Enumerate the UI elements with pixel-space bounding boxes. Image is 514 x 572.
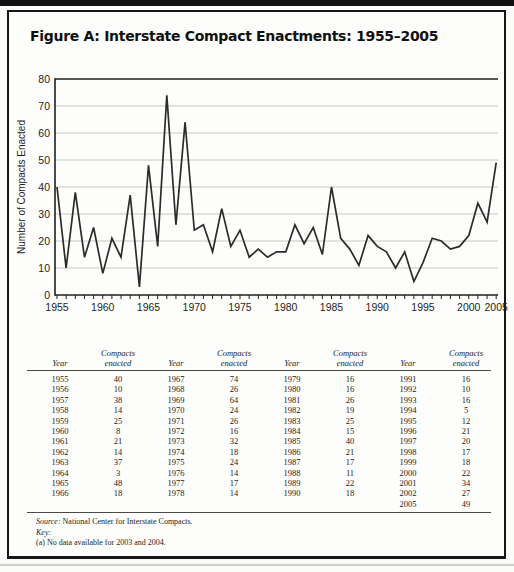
value-cell: 18 <box>325 488 375 498</box>
year-cell: 1965 <box>27 478 93 488</box>
year-cell: 1986 <box>259 447 325 457</box>
value-cell: 26 <box>209 384 259 394</box>
value-cell: 74 <box>209 374 259 384</box>
x-tick-label: 1980 <box>274 301 298 313</box>
value-cell: 22 <box>325 478 375 488</box>
x-tick-label: 2005 <box>485 301 509 313</box>
year-cell: 1996 <box>375 426 441 436</box>
x-tick-label: 1960 <box>91 301 115 313</box>
y-tick-label: 30 <box>38 208 50 220</box>
year-cell: 1971 <box>143 416 209 426</box>
value-cell: 25 <box>93 416 143 426</box>
year-cell <box>27 499 93 509</box>
year-cell: 1979 <box>259 374 325 384</box>
year-cell: 1969 <box>143 395 209 405</box>
year-cell: 1983 <box>259 416 325 426</box>
value-cell: 18 <box>93 488 143 498</box>
year-cell: 1990 <box>259 488 325 498</box>
y-tick-label: 0 <box>44 289 50 301</box>
table-header-row: YearCompacts enactedYearCompacts enacted… <box>27 342 491 371</box>
year-cell: 1981 <box>259 395 325 405</box>
year-cell: 1966 <box>27 488 93 498</box>
year-cell: 1992 <box>375 384 441 394</box>
value-cell: 26 <box>325 395 375 405</box>
figure-page: Figure A: Interstate Compact Enactments:… <box>0 0 514 572</box>
value-cell: 10 <box>441 384 491 394</box>
x-tick-label: 1955 <box>45 301 69 313</box>
figure-frame: Figure A: Interstate Compact Enactments:… <box>7 10 506 559</box>
x-tick-label: 1970 <box>183 301 207 313</box>
year-cell: 2000 <box>375 468 441 478</box>
year-cell: 1974 <box>143 447 209 457</box>
value-cell: 3 <box>93 468 143 478</box>
value-cell: 17 <box>325 457 375 467</box>
year-cell: 1967 <box>143 374 209 384</box>
y-tick-label: 40 <box>38 181 50 193</box>
year-cell: 1956 <box>27 384 93 394</box>
year-cell: 1955 <box>27 374 93 384</box>
y-tick-label: 60 <box>38 127 50 139</box>
value-cell: 37 <box>93 457 143 467</box>
y-tick-label: 10 <box>38 262 50 274</box>
year-cell: 1962 <box>27 447 93 457</box>
x-tick-label: 1985 <box>320 301 344 313</box>
value-cell <box>209 499 259 509</box>
value-cell: 21 <box>93 436 143 446</box>
year-cell: 1995 <box>375 416 441 426</box>
y-tick-label: 50 <box>38 154 50 166</box>
value-cell: 38 <box>93 395 143 405</box>
year-cell: 1973 <box>143 436 209 446</box>
value-cell: 10 <box>93 384 143 394</box>
table-footnotes: Source: National Center for Interstate C… <box>27 513 491 549</box>
table-body: 1955401967741979161991161956101968261980… <box>27 371 491 509</box>
year-cell: 1964 <box>27 468 93 478</box>
x-tick-label: 1965 <box>137 301 161 313</box>
value-cell <box>325 499 375 509</box>
year-cell: 1998 <box>375 447 441 457</box>
value-cell: 16 <box>441 395 491 405</box>
key-note: (a) No data available for 2003 and 2004. <box>36 538 491 549</box>
year-header: Year <box>143 342 209 368</box>
compacts-data-table: YearCompacts enactedYearCompacts enacted… <box>27 342 491 549</box>
year-cell: 1961 <box>27 436 93 446</box>
source-label: Source: <box>36 517 61 526</box>
compacts-enacted-header: Compacts enacted <box>93 342 143 368</box>
year-cell: 1958 <box>27 405 93 415</box>
value-cell <box>93 499 143 509</box>
value-cell: 34 <box>441 478 491 488</box>
year-cell: 1977 <box>143 478 209 488</box>
year-cell: 1994 <box>375 405 441 415</box>
y-tick-label: 70 <box>38 100 50 112</box>
value-cell: 12 <box>441 416 491 426</box>
year-cell: 1985 <box>259 436 325 446</box>
value-cell: 16 <box>209 426 259 436</box>
year-cell: 1959 <box>27 416 93 426</box>
year-cell: 1993 <box>375 395 441 405</box>
year-cell: 1972 <box>143 426 209 436</box>
year-cell <box>259 499 325 509</box>
compacts-enacted-header: Compacts enacted <box>209 342 259 368</box>
year-cell: 1984 <box>259 426 325 436</box>
value-cell: 40 <box>325 436 375 446</box>
value-cell: 14 <box>209 488 259 498</box>
year-cell: 2005 <box>375 499 441 509</box>
value-cell: 15 <box>325 426 375 436</box>
value-cell: 17 <box>209 478 259 488</box>
year-cell: 1987 <box>259 457 325 467</box>
year-cell: 1982 <box>259 405 325 415</box>
value-cell: 27 <box>441 488 491 498</box>
year-cell: 1963 <box>27 457 93 467</box>
year-header: Year <box>375 342 441 368</box>
year-cell: 1957 <box>27 395 93 405</box>
value-cell: 64 <box>209 395 259 405</box>
x-tick-label: 2000 <box>457 301 481 313</box>
value-cell: 14 <box>93 447 143 457</box>
x-tick-label: 1990 <box>366 301 390 313</box>
year-cell: 1976 <box>143 468 209 478</box>
value-cell: 16 <box>441 374 491 384</box>
year-cell: 1989 <box>259 478 325 488</box>
y-axis-title: Number of Compacts Enacted <box>16 120 27 254</box>
interstate-compacts-line-chart: 0102030405060708019551960196519701975198… <box>9 57 506 337</box>
value-cell: 18 <box>441 457 491 467</box>
value-cell: 25 <box>325 416 375 426</box>
